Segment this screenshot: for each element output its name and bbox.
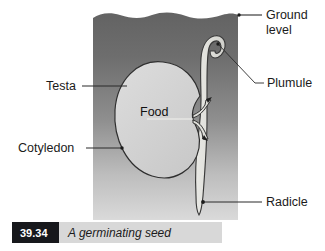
label-food: Food [140,105,169,119]
germinating-seed-diagram: Ground level Plumule Testa Cotyledon Foo… [0,0,325,251]
radicle-label: Radicle [266,195,308,209]
caption-bar: 39.34 A germinating seed [12,222,222,243]
plumule-label: Plumule [267,76,312,90]
ground-level-marker-dot [237,13,240,16]
cotyledon-marker-dot [120,146,123,149]
radicle-marker-dot [201,200,205,204]
food-label: Food [140,105,169,119]
cotyledon-label: Cotyledon [18,141,74,155]
caption-number: 39.34 [20,227,48,239]
ground-level-label-line2: level [266,23,292,37]
plumule-marker-dot [216,42,219,45]
caption-title: A germinating seed [67,226,171,240]
testa-label: Testa [46,79,76,93]
ground-level-label-line1: Ground [266,8,308,22]
figure-container: Ground level Plumule Testa Cotyledon Foo… [0,0,325,251]
